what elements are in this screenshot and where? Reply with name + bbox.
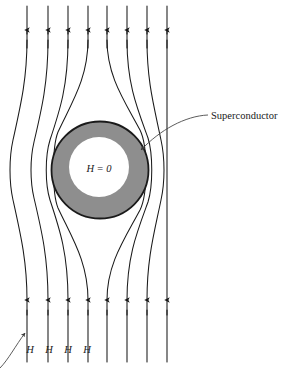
meissner-effect-diagram: H = 0 Superconductor H H H H bbox=[0, 0, 290, 368]
h-zero-label: H = 0 bbox=[85, 163, 112, 174]
superconductor-leader-line bbox=[141, 115, 208, 150]
superconductor-label: Superconductor bbox=[211, 110, 278, 121]
h-field-label-1: H bbox=[25, 344, 35, 355]
h-field-label-2: H bbox=[44, 344, 54, 355]
field-line-7 bbox=[147, 6, 164, 362]
field-line-1 bbox=[10, 6, 27, 362]
h-field-label-3: H bbox=[63, 344, 73, 355]
h-field-callout bbox=[0, 333, 25, 368]
h-field-label-4: H bbox=[82, 344, 92, 355]
h-field-leader-line bbox=[0, 333, 25, 368]
h-field-labels: H H H H bbox=[25, 344, 92, 355]
field-line-2 bbox=[31, 6, 48, 362]
